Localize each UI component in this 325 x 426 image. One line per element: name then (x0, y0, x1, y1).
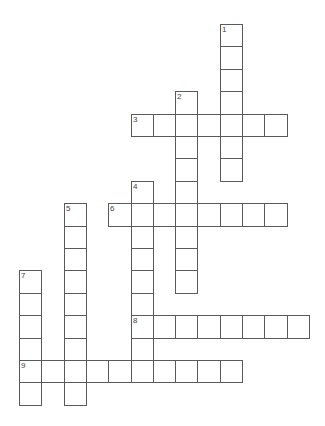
letter-input[interactable] (132, 204, 153, 226)
crossword-cell[interactable] (64, 315, 87, 339)
crossword-cell[interactable] (175, 136, 198, 159)
crossword-cell[interactable] (197, 203, 221, 227)
letter-input[interactable] (243, 115, 264, 136)
letter-input[interactable] (221, 47, 242, 69)
letter-input[interactable] (265, 316, 287, 338)
letter-input[interactable] (65, 361, 86, 382)
letter-input[interactable] (65, 227, 86, 248)
letter-input[interactable] (221, 115, 242, 136)
letter-input[interactable] (65, 339, 86, 360)
letter-input[interactable] (42, 361, 64, 382)
letter-input[interactable] (132, 339, 153, 360)
crossword-cell[interactable] (153, 114, 176, 137)
crossword-cell[interactable] (197, 360, 221, 383)
letter-input[interactable] (243, 316, 264, 338)
crossword-cell[interactable] (175, 226, 198, 249)
crossword-cell[interactable] (64, 226, 87, 249)
letter-input[interactable] (176, 137, 197, 158)
letter-input[interactable] (176, 271, 197, 293)
crossword-cell[interactable] (264, 315, 288, 339)
letter-input[interactable] (132, 316, 153, 338)
letter-input[interactable] (20, 361, 41, 382)
crossword-cell[interactable] (220, 360, 243, 383)
crossword-cell[interactable] (153, 203, 176, 227)
crossword-cell[interactable] (131, 203, 154, 227)
letter-input[interactable] (221, 204, 242, 226)
crossword-cell[interactable] (175, 158, 198, 182)
letter-input[interactable] (132, 249, 153, 270)
crossword-cell[interactable] (19, 293, 42, 316)
letter-input[interactable] (109, 361, 131, 382)
letter-input[interactable] (154, 204, 175, 226)
letter-input[interactable] (65, 316, 86, 338)
crossword-cell[interactable] (131, 293, 154, 316)
letter-input[interactable] (176, 204, 197, 226)
crossword-cell[interactable]: 1 (220, 24, 243, 47)
crossword-cell[interactable]: 8 (131, 315, 154, 339)
letter-input[interactable] (243, 204, 264, 226)
letter-input[interactable] (176, 249, 197, 270)
crossword-cell[interactable] (242, 203, 265, 227)
letter-input[interactable] (65, 383, 86, 405)
crossword-cell[interactable] (131, 248, 154, 271)
crossword-cell[interactable] (41, 360, 65, 383)
crossword-cell[interactable] (64, 293, 87, 316)
letter-input[interactable] (221, 316, 242, 338)
letter-input[interactable] (221, 25, 242, 46)
crossword-cell[interactable]: 5 (64, 203, 87, 227)
crossword-cell[interactable] (64, 338, 87, 361)
letter-input[interactable] (176, 182, 197, 203)
crossword-cell[interactable] (19, 315, 42, 339)
letter-input[interactable] (176, 159, 197, 181)
crossword-cell[interactable] (131, 226, 154, 249)
crossword-cell[interactable] (153, 360, 176, 383)
letter-input[interactable] (265, 204, 287, 226)
crossword-cell[interactable] (197, 114, 221, 137)
letter-input[interactable] (198, 316, 220, 338)
crossword-cell[interactable] (175, 360, 198, 383)
letter-input[interactable] (288, 316, 309, 338)
crossword-cell[interactable] (220, 69, 243, 92)
crossword-cell[interactable] (220, 315, 243, 339)
letter-input[interactable] (65, 271, 86, 293)
crossword-cell[interactable] (264, 114, 288, 137)
letter-input[interactable] (154, 115, 175, 136)
crossword-cell[interactable] (220, 46, 243, 70)
letter-input[interactable] (176, 92, 197, 114)
crossword-cell[interactable] (64, 382, 87, 406)
letter-input[interactable] (176, 115, 197, 136)
letter-input[interactable] (20, 271, 41, 293)
crossword-cell[interactable] (64, 270, 87, 294)
crossword-cell[interactable] (242, 315, 265, 339)
crossword-cell[interactable]: 3 (131, 114, 154, 137)
crossword-cell[interactable]: 9 (19, 360, 42, 383)
crossword-cell[interactable] (86, 360, 109, 383)
crossword-cell[interactable] (64, 248, 87, 271)
letter-input[interactable] (198, 361, 220, 382)
letter-input[interactable] (132, 182, 153, 203)
letter-input[interactable] (132, 271, 153, 293)
crossword-cell[interactable] (153, 315, 176, 339)
crossword-cell[interactable] (287, 315, 310, 339)
crossword-cell[interactable]: 7 (19, 270, 42, 294)
crossword-cell[interactable] (131, 270, 154, 294)
letter-input[interactable] (65, 204, 86, 226)
letter-input[interactable] (109, 204, 131, 226)
crossword-cell[interactable] (19, 382, 42, 406)
letter-input[interactable] (65, 249, 86, 270)
letter-input[interactable] (20, 294, 41, 315)
letter-input[interactable] (198, 115, 220, 136)
letter-input[interactable] (20, 316, 41, 338)
crossword-cell[interactable]: 4 (131, 181, 154, 204)
letter-input[interactable] (132, 115, 153, 136)
crossword-cell[interactable] (131, 338, 154, 361)
letter-input[interactable] (221, 70, 242, 91)
crossword-cell[interactable] (220, 136, 243, 159)
crossword-cell[interactable] (220, 114, 243, 137)
letter-input[interactable] (20, 339, 41, 360)
crossword-cell[interactable] (175, 270, 198, 294)
letter-input[interactable] (176, 227, 197, 248)
letter-input[interactable] (221, 159, 242, 181)
crossword-cell[interactable] (197, 315, 221, 339)
crossword-cell[interactable] (131, 360, 154, 383)
